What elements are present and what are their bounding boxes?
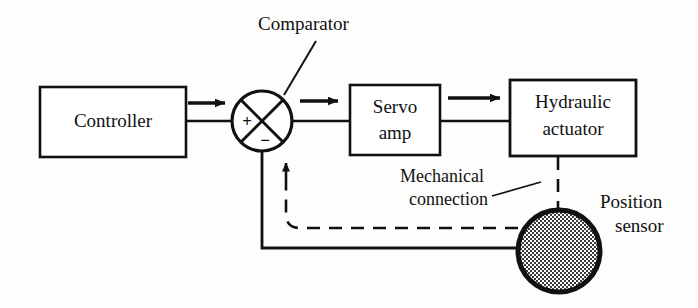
wire-servo-amp-to-actuator: [440, 98, 511, 121]
comparator-callout: Comparator: [258, 13, 349, 95]
block-servo-amp[interactable]: Servo amp: [350, 85, 440, 155]
wire-comparator-to-servo-amp: [291, 101, 351, 121]
mechanical-connection-link: Mechanical connection: [400, 157, 558, 210]
comparator-minus-sign: −: [260, 131, 270, 150]
position-sensor-node[interactable]: Position sensor: [518, 191, 664, 292]
block-diagram-figure: Controller + − Comparator Servo: [0, 0, 698, 308]
hydraulic-actuator-label-line1: Hydraulic: [535, 91, 611, 112]
mechanical-connection-label-line1: Mechanical: [400, 166, 484, 186]
comparator-label: Comparator: [258, 13, 349, 34]
mechanical-connection-label-line2: connection: [409, 189, 488, 209]
comparator-leader-line: [284, 41, 316, 95]
controller-label: Controller: [74, 110, 153, 131]
position-sensor-label-line2: sensor: [615, 215, 664, 236]
block-hydraulic-actuator[interactable]: Hydraulic actuator: [510, 80, 636, 156]
mechanical-leader-line: [492, 182, 541, 196]
servo-amp-label-line2: amp: [379, 122, 412, 143]
hydraulic-actuator-label-line2: actuator: [542, 118, 604, 139]
block-controller[interactable]: Controller: [40, 87, 186, 157]
diagram-canvas: Controller + − Comparator Servo: [0, 0, 698, 308]
servo-amp-label-line1: Servo: [373, 96, 417, 117]
comparator-node[interactable]: + −: [232, 91, 292, 151]
position-sensor-circle: [518, 210, 600, 292]
comparator-plus-sign: +: [242, 112, 252, 131]
wire-controller-to-comparator: [186, 103, 233, 121]
position-sensor-label-line1: Position: [600, 191, 663, 212]
